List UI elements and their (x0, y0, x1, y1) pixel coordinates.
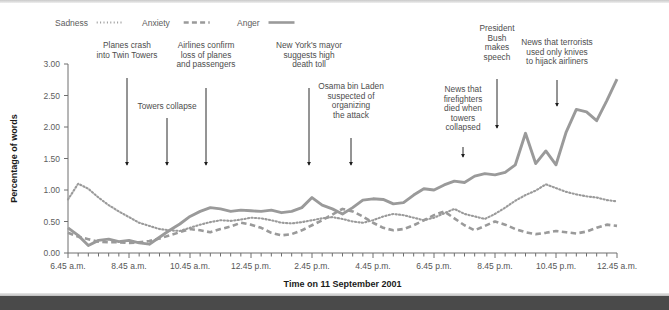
y-tick-label: 1.00 (43, 185, 60, 195)
annotation-text-line: into Twin Towers (96, 50, 157, 60)
annotation-text-line: organizing (332, 100, 371, 110)
legend-label-anxiety: Anxiety (142, 18, 171, 28)
annotation-text-line: News that (445, 84, 483, 94)
annotation-text-line: Osama bin Laden (318, 81, 384, 91)
annotation-text-line: President (479, 23, 515, 33)
x-tick-label: 6.45 p.m. (416, 261, 451, 271)
y-axis-title: Percentage of words (9, 114, 19, 203)
y-tick-label: 0.50 (43, 217, 60, 227)
annotation-text-line: New York's mayor (276, 40, 342, 50)
x-tick-label: 10.45 p.m. (536, 261, 576, 271)
x-axis-title: Time on 11 September 2001 (284, 279, 402, 289)
x-tick-label: 4.45 p.m. (355, 261, 390, 271)
annotation-text-line: death toll (292, 59, 326, 69)
x-tick-label: 8.45 p.m. (477, 261, 512, 271)
annotation-text-line: used only knives (526, 47, 587, 57)
annotation-text-line: News that terrorists (521, 37, 592, 47)
annotation-text-line: the attack (333, 110, 370, 120)
x-tick-label: 12.45 p.m. (231, 261, 271, 271)
annotation-text-line: loss of planes (181, 50, 232, 60)
annotation-5: Osama bin Ladensuspected oforganizingthe… (318, 81, 384, 165)
legend-label-sadness: Sadness (55, 18, 88, 28)
line-chart: SadnessAnxietyAnger0.000.501.001.502.002… (0, 0, 669, 310)
annotation-6: News thatfirefightersdied whentowerscoll… (444, 84, 483, 157)
annotation-text-line: firefighters (444, 94, 483, 104)
legend-label-anger: Anger (237, 18, 260, 28)
chart-legend: SadnessAnxietyAnger (55, 18, 295, 28)
annotation-text-line: and passengers (176, 59, 235, 69)
x-tick-label: 10.45 a.m. (170, 261, 210, 271)
y-tick-label: 2.00 (43, 122, 60, 132)
series-line-sadness (68, 184, 617, 231)
x-tick-label: 12.45 a.m. (597, 261, 637, 271)
annotation-7: PresidentBushmakesspeech (479, 23, 515, 128)
annotation-text-line: Bush (488, 33, 507, 43)
annotation-text-line: suggests high (283, 50, 335, 60)
y-tick-label: 0.00 (43, 248, 60, 258)
annotation-text-line: Towers collapse (137, 101, 196, 111)
annotation-text-line: suspected of (327, 91, 375, 101)
y-tick-label: 2.50 (43, 91, 60, 101)
annotation-text-line: to hijack airliners (526, 56, 588, 66)
y-tick-label: 3.00 (43, 59, 60, 69)
figure-container: SadnessAnxietyAnger0.000.501.001.502.002… (0, 0, 669, 310)
x-tick-label: 6.45 a.m. (50, 261, 85, 271)
annotation-text-line: Planes crash (103, 40, 151, 50)
annotation-text-line: Airlines confirm (178, 40, 235, 50)
annotation-text-line: makes (485, 42, 509, 52)
annotation-8: News that terroristsused only knivesto h… (521, 37, 592, 106)
x-tick-label: 8.45 a.m. (111, 261, 146, 271)
annotation-2: Towers collapse (137, 101, 196, 165)
annotation-text-line: died when (444, 103, 482, 113)
annotation-text-line: towers (451, 113, 475, 123)
y-tick-label: 1.50 (43, 154, 60, 164)
annotation-text-line: collapsed (445, 122, 480, 132)
x-tick-label: 2.45 p.m. (294, 261, 329, 271)
annotation-text-line: speech (484, 52, 511, 62)
